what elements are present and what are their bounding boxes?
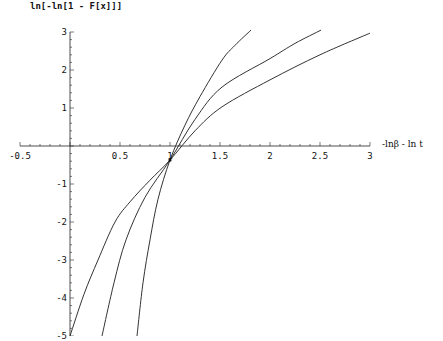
- axes: [20, 32, 370, 336]
- x-tick-label: 0.5: [112, 152, 128, 161]
- curve-shallow-curve: [70, 33, 370, 336]
- x-axis-label: -lnβ - ln t: [382, 140, 423, 149]
- x-tick-label: 3: [367, 152, 372, 161]
- y-tick-label: 2: [62, 66, 67, 75]
- y-axis-label: ln[-ln[1 - F[x]]]: [30, 2, 122, 11]
- y-tick-label: -1: [56, 180, 67, 189]
- y-tick-label: -2: [56, 218, 67, 227]
- y-tick-label: -3: [56, 256, 67, 265]
- x-tick-label: 1: [167, 152, 172, 161]
- y-tick-label: -4: [56, 294, 67, 303]
- x-tick-label: 1.5: [212, 152, 228, 161]
- x-tick-label: 2.5: [312, 152, 328, 161]
- y-tick-label: -5: [56, 332, 67, 341]
- x-tick-label: 2: [267, 152, 272, 161]
- x-tick-label: -0.5: [9, 152, 31, 161]
- curves: [70, 30, 370, 336]
- y-tick-label: 1: [62, 104, 67, 113]
- y-tick-label: 3: [62, 28, 67, 37]
